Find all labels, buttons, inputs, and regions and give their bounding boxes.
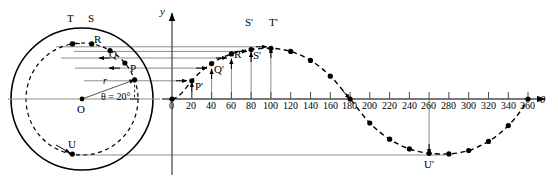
x-axis-label: θ <box>540 94 545 105</box>
curve-point-340 <box>506 123 511 128</box>
curve-point-140 <box>308 58 313 63</box>
curve-point-320 <box>486 139 491 144</box>
cartesian-axes <box>162 13 545 175</box>
x-tick-label-280: 280 <box>441 101 456 111</box>
curve-point-Pprime <box>189 78 194 83</box>
curve-point-220 <box>387 137 392 142</box>
label-point-R: R <box>94 34 101 45</box>
x-tick-label-160: 160 <box>323 101 338 111</box>
label-curve-point-Sprime-lower: S' <box>253 50 261 61</box>
label-curve-point-Rprime: R' <box>234 49 243 60</box>
label-radius-r: r <box>103 76 107 86</box>
circle-point-P <box>132 77 137 82</box>
curve-point-280 <box>446 151 451 156</box>
x-tick-label-20: 20 <box>186 101 196 111</box>
label-point-T: T <box>67 13 74 24</box>
curve-point-Tprime <box>268 46 273 51</box>
curve-point-240 <box>407 146 412 151</box>
circle-center-dot-O <box>80 97 85 102</box>
label-curve-point-Tprime: T' <box>269 17 278 28</box>
label-point-U: U <box>68 139 76 150</box>
x-tick-label-200: 200 <box>362 101 377 111</box>
x-tick-label-360: 360 <box>520 101 535 111</box>
x-tick-label-80: 80 <box>246 101 256 111</box>
x-tick-label-260: 260 <box>421 101 436 111</box>
curve-point-120 <box>288 49 293 54</box>
label-angle-theta: θ = 20° <box>101 92 130 102</box>
label-circle-center-O: O <box>77 104 85 115</box>
curve-point-300 <box>466 148 471 153</box>
label-point-P: P <box>130 63 136 74</box>
label-curve-point-Pprime: P' <box>195 81 203 92</box>
x-tick-label-180: 180 <box>342 101 357 111</box>
curve-point-Uprime <box>427 151 432 156</box>
label-point-S: S <box>88 13 94 24</box>
label-point-Q: Q <box>109 49 117 60</box>
circle-point-Q <box>122 60 127 65</box>
circle-point-U <box>70 152 75 157</box>
x-tick-label-120: 120 <box>283 101 298 111</box>
label-curve-point-Sprime-upper: S' <box>245 17 253 28</box>
x-tick-label-0: 0 <box>169 101 174 111</box>
label-curve-point-Uprime: U' <box>424 159 434 170</box>
y-axis-label: y <box>160 6 165 17</box>
x-tick-label-340: 340 <box>501 101 516 111</box>
figure-canvas <box>0 0 558 185</box>
x-axis-ticks <box>192 92 528 99</box>
sine-curve-construction-figure: P Q R S T U O r θ = 20° P' Q' R' S' S' T… <box>0 0 558 185</box>
x-tick-label-100: 100 <box>263 101 278 111</box>
label-curve-point-Qprime: Q' <box>214 64 224 75</box>
arrow-curve-180 <box>342 90 350 99</box>
x-tick-label-320: 320 <box>481 101 496 111</box>
x-tick-label-60: 60 <box>226 101 236 111</box>
curve-point-160 <box>328 74 333 79</box>
generating-circle-group <box>8 28 160 170</box>
curve-point-200 <box>367 120 372 125</box>
x-tick-label-40: 40 <box>206 101 216 111</box>
x-tick-label-220: 220 <box>382 101 397 111</box>
x-tick-label-240: 240 <box>402 101 417 111</box>
x-tick-label-140: 140 <box>303 101 318 111</box>
x-tick-label-300: 300 <box>461 101 476 111</box>
